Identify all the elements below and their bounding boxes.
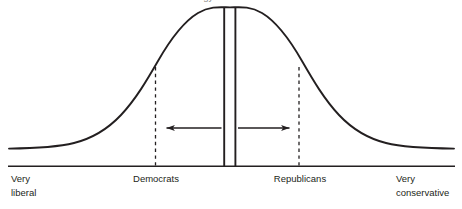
bell-curve-path: [9, 7, 454, 148]
axis-label-very-liberal: Very liberal: [11, 172, 36, 199]
axis-label-very-conservative: Very conservative: [396, 172, 449, 199]
axis-label-democrats: Democrats: [125, 172, 187, 186]
axis-label-republicans: Republicans: [266, 172, 334, 186]
bell-curve-plot: [0, 0, 462, 209]
ideology-distribution-figure: ideology of the electorate Very liberal …: [0, 0, 462, 209]
